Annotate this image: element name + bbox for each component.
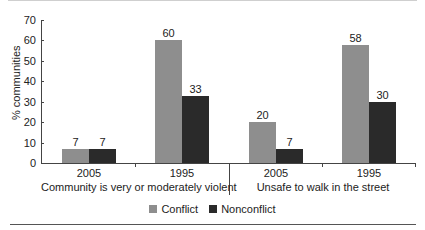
- legend-label: Conflict: [161, 203, 198, 215]
- legend: Conflict Nonconflict: [0, 203, 425, 215]
- y-tick: [41, 102, 44, 103]
- value-label: 7: [276, 136, 303, 148]
- bar-nonconflict: [369, 102, 396, 163]
- legend-label: Nonconflict: [221, 203, 275, 215]
- value-label: 7: [89, 136, 116, 148]
- y-axis-title: % communities: [10, 60, 22, 120]
- bar-nonconflict: [89, 149, 116, 163]
- value-label: 7: [62, 136, 89, 148]
- y-tick: [41, 163, 44, 164]
- x-category-label: 1995: [152, 167, 212, 179]
- bar-conflict: [155, 40, 182, 163]
- bar-conflict: [342, 45, 369, 163]
- x-tick: [135, 163, 136, 167]
- x-tick: [322, 163, 323, 167]
- bar-conflict: [249, 122, 276, 163]
- y-tick: [41, 143, 44, 144]
- legend-swatch-nonconflict: [209, 205, 217, 213]
- legend-item-nonconflict: Nonconflict: [209, 203, 275, 215]
- x-category-label: 2005: [246, 167, 306, 179]
- x-tick: [415, 163, 416, 167]
- y-tick: [41, 61, 44, 62]
- y-tick-label: 0: [14, 157, 36, 169]
- legend-item-conflict: Conflict: [149, 203, 198, 215]
- y-tick-label: 30: [14, 96, 36, 108]
- value-label: 60: [155, 27, 182, 39]
- y-tick: [41, 40, 44, 41]
- y-tick: [41, 20, 44, 21]
- y-tick-label: 70: [14, 14, 36, 26]
- y-tick: [41, 81, 44, 82]
- y-axis: [41, 20, 42, 163]
- y-tick: [41, 122, 44, 123]
- x-category-label: 2005: [59, 167, 119, 179]
- y-tick-label: 60: [14, 34, 36, 46]
- group-label: Community is very or moderately violent: [41, 181, 229, 193]
- bar-conflict: [62, 149, 89, 163]
- y-tick-label: 10: [14, 137, 36, 149]
- value-label: 33: [182, 83, 209, 95]
- y-tick-label: 40: [14, 75, 36, 87]
- value-label: 30: [369, 89, 396, 101]
- legend-swatch-conflict: [149, 205, 157, 213]
- top-rule: [8, 0, 417, 1]
- value-label: 20: [249, 109, 276, 121]
- y-tick-label: 50: [14, 55, 36, 67]
- x-category-label: 1995: [339, 167, 399, 179]
- bar-nonconflict: [276, 149, 303, 163]
- y-tick-label: 20: [14, 116, 36, 128]
- bottom-rule: [10, 224, 416, 225]
- value-label: 58: [342, 32, 369, 44]
- bar-nonconflict: [182, 96, 209, 163]
- group-label: Unsafe to walk in the street: [230, 181, 416, 193]
